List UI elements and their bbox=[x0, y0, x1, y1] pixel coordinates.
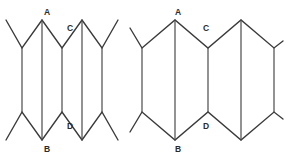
right-label-D: D bbox=[203, 121, 209, 131]
accordion-fold-diagram: A C B D A C B D bbox=[0, 0, 285, 158]
left-label-A: A bbox=[44, 7, 50, 17]
right-label-A: A bbox=[175, 7, 181, 17]
right-label-C: C bbox=[203, 23, 209, 33]
left-label-D: D bbox=[67, 121, 73, 131]
right-label-B: B bbox=[175, 144, 181, 154]
left-label-C: C bbox=[67, 23, 73, 33]
left-label-B: B bbox=[44, 144, 50, 154]
